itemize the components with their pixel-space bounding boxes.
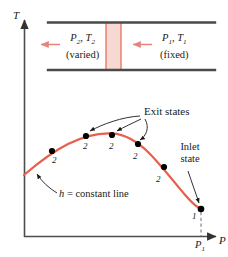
right-flow-line2: (fixed) bbox=[160, 49, 189, 60]
state-point-1 bbox=[198, 206, 205, 213]
state-point-2a bbox=[49, 148, 55, 154]
leader-exit-to-2d bbox=[140, 119, 147, 140]
point-label-2d: 2 bbox=[133, 151, 138, 161]
leader-h-constant bbox=[37, 174, 57, 193]
left-flow-line2: (varied) bbox=[66, 49, 99, 60]
point-label-2c: 2 bbox=[109, 141, 114, 151]
exit-states-label: Exit states bbox=[144, 106, 190, 118]
h-constant-rest: = constant line bbox=[64, 188, 129, 199]
right-flow-t-sub: 1 bbox=[183, 38, 187, 46]
point-label-1: 1 bbox=[192, 211, 197, 221]
right-flow-label: P1, T1 (fixed) bbox=[160, 32, 189, 60]
right-flow-line1: P1, T1 bbox=[160, 32, 189, 47]
x-tick-label-sub: 1 bbox=[201, 245, 205, 253]
leader-exit-to-2c bbox=[117, 119, 141, 131]
point-label-2a: 2 bbox=[52, 155, 57, 165]
left-flow-line1: P2, T2 bbox=[66, 32, 99, 47]
point-label-2b: 2 bbox=[83, 141, 88, 151]
h-constant-label: h = constant line bbox=[59, 188, 129, 199]
state-point-2b bbox=[83, 133, 89, 139]
left-flow-t-sub: 2 bbox=[91, 38, 95, 46]
figure-throttling-diagram: T P P1 P2, T2 (varied) P1, T1 (fixed) Ex… bbox=[0, 0, 228, 257]
point-label-2e: 2 bbox=[156, 174, 161, 184]
state-point-2d bbox=[135, 141, 141, 147]
left-flow-label: P2, T2 (varied) bbox=[66, 32, 99, 60]
state-point-2e bbox=[161, 164, 167, 170]
inlet-state-line1: Inlet bbox=[163, 141, 217, 153]
inlet-state-line2: state bbox=[163, 153, 217, 165]
x-tick-label-p1: P1 bbox=[195, 239, 205, 254]
leader-inlet-to-1 bbox=[188, 171, 199, 203]
porous-plug bbox=[106, 22, 122, 70]
state-point-2c bbox=[109, 132, 115, 138]
y-axis-label: T bbox=[13, 10, 19, 22]
x-axis-label: P bbox=[219, 235, 226, 247]
inlet-state-label: Inlet state bbox=[163, 141, 217, 165]
